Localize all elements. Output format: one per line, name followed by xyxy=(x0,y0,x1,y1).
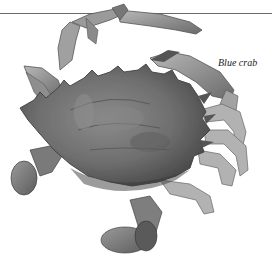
figure: Blue crab xyxy=(0,0,272,259)
left-swimming-paddle xyxy=(11,146,62,195)
top-pincer xyxy=(112,4,202,34)
upper-left-claw xyxy=(58,8,128,70)
figure-caption: Blue crab xyxy=(218,57,257,68)
blue-crab-photo xyxy=(0,0,272,259)
bottom-swimming-paddle xyxy=(101,196,162,253)
